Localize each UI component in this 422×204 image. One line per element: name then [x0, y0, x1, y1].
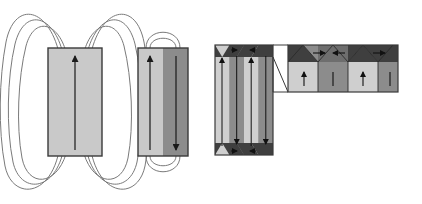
- figure-root: [0, 0, 422, 204]
- two-domain-magnet: [138, 32, 188, 172]
- multi-domain-stripe-block: [215, 45, 273, 155]
- magnetic-domains-diagram: [0, 0, 422, 204]
- magnified-closure-domain-view: [288, 45, 398, 92]
